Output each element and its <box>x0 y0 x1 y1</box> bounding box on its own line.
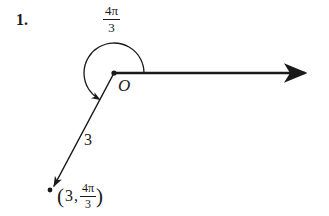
polar-diagram-page: 1. 4π 3 O 3 ( 3 , 4π 3 ) <box>0 0 329 216</box>
radius-length-label: 3 <box>84 132 92 148</box>
angle-denominator: 3 <box>103 20 120 35</box>
origin-label: O <box>118 77 130 94</box>
terminal-ray <box>54 73 114 186</box>
angle-numerator: 4π <box>103 4 120 20</box>
problem-number-label: 1. <box>16 12 28 28</box>
origin-point <box>111 70 116 75</box>
point-theta-numerator: 4π <box>80 182 96 197</box>
point-coordinate-label: ( 3 , 4π 3 ) <box>57 182 103 210</box>
polar-diagram-canvas <box>0 0 329 216</box>
plotted-point <box>48 188 53 193</box>
point-theta-denominator: 3 <box>80 197 96 211</box>
point-theta-fraction: 4π 3 <box>80 182 96 210</box>
point-r-value: 3 <box>64 188 74 204</box>
angle-measure-label: 4π 3 <box>103 4 120 34</box>
angle-fraction: 4π 3 <box>103 4 120 34</box>
open-paren: ( <box>57 186 64 207</box>
close-paren: ) <box>96 186 103 207</box>
